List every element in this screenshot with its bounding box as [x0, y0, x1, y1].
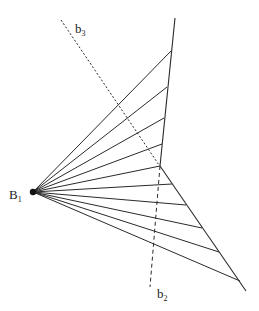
bisector-b3-dashed-line	[61, 20, 159, 165]
label-b1-main: B	[9, 187, 18, 202]
lower-ray-2	[33, 192, 186, 205]
upper-boundary-line	[160, 18, 175, 166]
label-b1-subscript: 1	[18, 195, 22, 204]
label-b1: B1	[9, 187, 22, 204]
label-b2-subscript: 2	[164, 294, 168, 303]
lower-ray-3	[33, 192, 202, 228]
bisector-b2-dashed-line	[150, 166, 160, 287]
upper-ray-3	[33, 118, 164, 192]
lower-boundary-line	[160, 166, 246, 291]
upper-ray-2	[33, 87, 167, 192]
ray-group	[33, 51, 240, 281]
label-b2: b2	[157, 286, 168, 303]
label-b3-subscript: 3	[82, 29, 86, 38]
upper-ray-4	[33, 144, 162, 192]
upper-ray-1	[33, 51, 171, 192]
lower-ray-4	[33, 192, 219, 252]
label-b3: b3	[75, 21, 86, 38]
ray-fan-diagram: B1 b3 b2	[0, 0, 259, 311]
origin-point-b1	[30, 189, 36, 195]
